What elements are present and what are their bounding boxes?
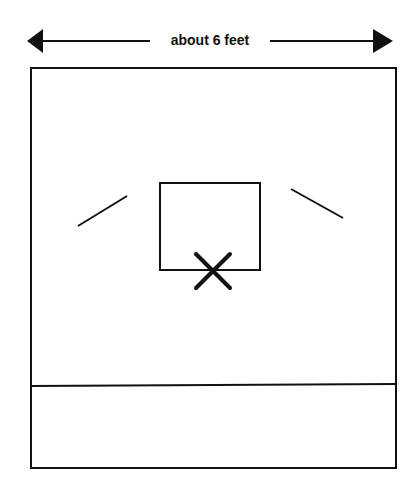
dimension-label: about 6 feet [150, 30, 270, 50]
center-square [160, 183, 260, 270]
arrowhead-right-icon [373, 29, 393, 53]
right-angled-line [291, 189, 343, 218]
left-angled-line [78, 196, 127, 226]
diagram-canvas [0, 0, 417, 488]
arrowhead-left-icon [27, 29, 43, 53]
divider-line [31, 384, 396, 386]
